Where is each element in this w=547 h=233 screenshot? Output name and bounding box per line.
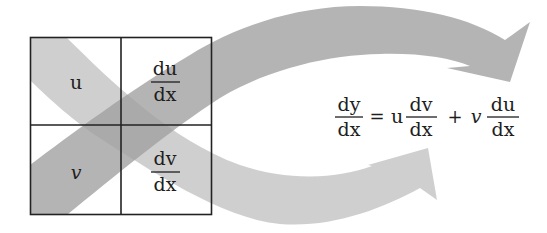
product-rule-equation: dy dx = u dv dx + v du dx [335,93,519,140]
eq-lhs-denominator: dx [338,118,361,140]
eq-term2-coefficient: v [471,105,482,127]
eq-lhs-numerator: dy [338,93,361,115]
eq-term2-denominator: dx [492,118,515,140]
cell-dv-numerator: dv [154,147,177,169]
eq-equals-sign: = [369,106,384,127]
eq-term1-denominator: dx [410,118,433,140]
cell-du-denominator: dx [154,83,177,105]
cell-v-label: v [71,161,82,183]
eq-term1-coefficient: u [391,105,403,127]
eq-plus-sign: + [447,106,462,127]
eq-term2-numerator: du [491,93,515,115]
cell-u-label: u [70,71,82,93]
eq-term1-numerator: dv [410,93,433,115]
cell-du-numerator: du [153,57,177,79]
cell-dv-denominator: dx [154,173,177,195]
product-rule-diagram: u du dx v dv dx dy dx = u dv dx + v du d… [0,0,547,233]
